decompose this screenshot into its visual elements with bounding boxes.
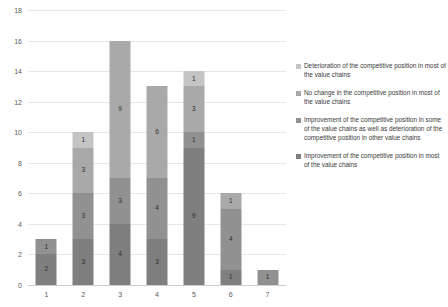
bars-layer: 121133329343643413195141617 <box>28 0 286 307</box>
bar-segment-value: 3 <box>118 198 122 205</box>
bar-column[interactable]: 1 <box>250 22 286 307</box>
bar-segment-value: 9 <box>118 106 122 113</box>
stacked-bar-chart: 024681012141618 121133329343643413195141… <box>0 0 448 307</box>
bar-segment-value: 3 <box>81 167 85 174</box>
y-axis-tick-label: 14 <box>14 68 22 75</box>
bar-segment-value: 2 <box>45 266 49 273</box>
legend-swatch-icon <box>296 118 301 123</box>
x-axis-tick-label: 5 <box>176 291 212 298</box>
bar-segment[interactable]: 1 <box>183 132 204 147</box>
legend-item-label: No change in the competitive position in… <box>304 89 446 106</box>
bar-segment-value: 1 <box>266 274 270 281</box>
bar-segment-value: 1 <box>229 198 233 205</box>
y-axis-tick-label: 0 <box>18 282 22 289</box>
bar-segment-value: 4 <box>155 205 159 212</box>
bar-stack[interactable]: 643 <box>147 86 168 285</box>
bar-segment-value: 3 <box>81 213 85 220</box>
bar-segment[interactable]: 3 <box>147 239 168 285</box>
y-axis-tick-label: 4 <box>18 220 22 227</box>
bar-segment[interactable]: 3 <box>110 178 131 224</box>
y-axis-tick-label: 12 <box>14 98 22 105</box>
bar-stack[interactable]: 1333 <box>73 132 94 285</box>
bar-segment[interactable]: 1 <box>257 270 278 285</box>
bar-column[interactable]: 141 <box>213 22 249 307</box>
bar-segment[interactable]: 9 <box>110 41 131 179</box>
x-axis-tick-label: 7 <box>250 291 286 298</box>
bar-segment-value: 1 <box>45 244 49 251</box>
bar-stack[interactable]: 1 <box>257 270 278 285</box>
bar-segment-value: 6 <box>155 129 159 136</box>
legend-item-label: Improvement of the competitive position … <box>304 116 446 142</box>
legend-swatch-icon <box>296 91 301 96</box>
bar-segment[interactable]: 1 <box>220 193 241 208</box>
x-axis-tick-label: 1 <box>28 291 64 298</box>
bar-column[interactable]: 1333 <box>65 22 101 307</box>
bar-segment[interactable]: 3 <box>183 86 204 132</box>
legend-item[interactable]: Improvement of the competitive position … <box>296 152 446 169</box>
y-axis-tick-label: 10 <box>14 129 22 136</box>
bar-stack[interactable]: 1319 <box>183 71 204 285</box>
bar-segment[interactable]: 1 <box>36 239 57 254</box>
bar-segment[interactable]: 1 <box>183 71 204 86</box>
bar-segment-value: 3 <box>81 259 85 266</box>
bar-segment[interactable]: 9 <box>183 148 204 286</box>
legend-item[interactable]: Deterioration of the competitive positio… <box>296 62 446 79</box>
bar-stack[interactable]: 934 <box>110 41 131 285</box>
bar-column[interactable]: 934 <box>102 22 138 307</box>
bar-segment-value: 3 <box>192 106 196 113</box>
legend-item-label: Deterioration of the competitive positio… <box>304 62 446 79</box>
x-axis-tick-label: 3 <box>102 291 138 298</box>
bar-stack[interactable]: 141 <box>220 193 241 285</box>
bar-segment-value: 1 <box>81 137 85 144</box>
bar-segment[interactable]: 1 <box>220 270 241 285</box>
chart-legend: Deterioration of the competitive positio… <box>296 62 446 179</box>
bar-segment-value: 9 <box>192 213 196 220</box>
bar-segment-value: 1 <box>229 274 233 281</box>
bar-segment-value: 4 <box>118 251 122 258</box>
bar-segment[interactable]: 1 <box>73 132 94 147</box>
bar-column[interactable]: 12 <box>28 22 64 307</box>
bar-segment[interactable]: 6 <box>147 86 168 178</box>
bar-segment-value: 4 <box>229 236 233 243</box>
bar-column[interactable]: 643 <box>139 22 175 307</box>
y-axis-tick-label: 8 <box>18 159 22 166</box>
x-axis-tick-label: 4 <box>139 291 175 298</box>
legend-item[interactable]: No change in the competitive position in… <box>296 89 446 106</box>
bar-segment-value: 3 <box>155 259 159 266</box>
bar-segment[interactable]: 4 <box>110 224 131 285</box>
bar-column[interactable]: 1319 <box>176 22 212 307</box>
bar-segment[interactable]: 3 <box>73 239 94 285</box>
y-axis-tick-label: 16 <box>14 37 22 44</box>
legend-item-label: Improvement of the competitive position … <box>304 152 446 169</box>
legend-swatch-icon <box>296 154 301 159</box>
plot-area: 024681012141618 121133329343643413195141… <box>0 0 292 307</box>
bar-segment[interactable]: 3 <box>73 193 94 239</box>
bar-segment-value: 1 <box>192 76 196 83</box>
bar-segment-value: 1 <box>192 137 196 144</box>
y-axis: 024681012141618 <box>0 0 26 307</box>
bar-segment[interactable]: 4 <box>147 178 168 239</box>
bar-segment[interactable]: 3 <box>73 148 94 194</box>
y-axis-tick-label: 6 <box>18 190 22 197</box>
bar-stack[interactable]: 12 <box>36 239 57 285</box>
bar-segment[interactable]: 4 <box>220 209 241 270</box>
y-axis-tick-label: 18 <box>14 7 22 14</box>
x-axis-tick-label: 6 <box>213 291 249 298</box>
legend-swatch-icon <box>296 64 301 69</box>
bar-segment[interactable]: 2 <box>36 254 57 285</box>
legend-item[interactable]: Improvement of the competitive position … <box>296 116 446 142</box>
y-axis-tick-label: 2 <box>18 251 22 258</box>
x-axis-tick-label: 2 <box>65 291 101 298</box>
